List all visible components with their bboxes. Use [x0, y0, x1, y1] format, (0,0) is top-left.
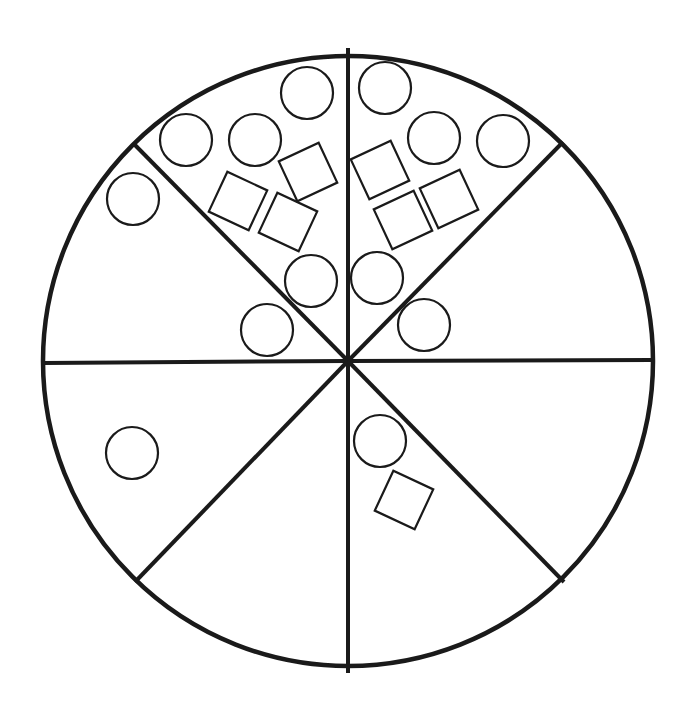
square-shape-top-right-upper	[351, 141, 409, 199]
spoke-left	[44, 361, 348, 363]
circle-shape-top-right-upper	[408, 112, 460, 164]
circle-shape-top-left-upper	[160, 114, 212, 166]
circle-shape-top-left-upper	[281, 67, 333, 119]
circle-shape-bottom-right	[354, 415, 406, 467]
square-shape-top-left-upper	[279, 143, 337, 201]
square-shape-top-right-upper	[420, 170, 478, 228]
circle-shape-top-left-upper	[241, 304, 293, 356]
circle-shape-left-upper	[107, 173, 159, 225]
circle-shape-top-right-upper	[351, 252, 403, 304]
spoke-bottom-left	[135, 361, 348, 582]
square-shape-top-left-upper	[259, 193, 317, 251]
spoke-bottom-right	[348, 361, 564, 582]
circle-shape-top-right-upper	[359, 62, 411, 114]
spoke-right	[348, 360, 652, 361]
square-shape-top-right-upper	[374, 191, 432, 249]
circle-shape-top-left-upper	[285, 255, 337, 307]
sector-diagram	[0, 0, 688, 717]
circle-shape-top-right-upper	[398, 299, 450, 351]
square-shape-top-left-upper	[209, 172, 267, 230]
square-shape-bottom-right	[375, 471, 433, 529]
circle-shape-left-lower	[106, 427, 158, 479]
circle-shape-top-right-upper	[477, 115, 529, 167]
circle-shape-top-left-upper	[229, 114, 281, 166]
